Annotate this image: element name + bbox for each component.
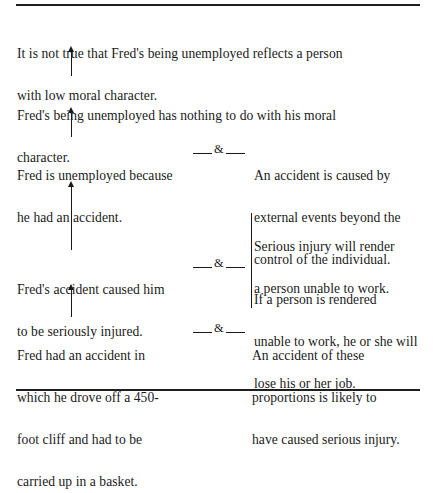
and-connector: & — [193, 257, 245, 269]
statement-warrant-5: An accident of these proportions is like… — [252, 321, 400, 461]
connector-line — [226, 267, 245, 268]
arrow-up-icon — [71, 183, 72, 250]
statement-line: carried up in a basket. — [17, 475, 159, 489]
bottom-rule — [16, 389, 420, 391]
arrow-up-icon — [71, 48, 72, 76]
statement-claim-3: Fred is unemployed because he had an acc… — [17, 141, 173, 239]
statement-line: An accident is caused by — [254, 169, 401, 183]
connector-line — [193, 332, 212, 333]
statement-line: An accident of these — [252, 349, 400, 363]
connector-line — [193, 153, 212, 154]
statement-line: which he drove off a 450- — [17, 391, 159, 405]
statement-line: Fred's accident caused him — [17, 283, 165, 297]
statement-line: Serious injury will render — [254, 240, 395, 254]
statement-premise: Fred had an accident in which he drove o… — [17, 321, 159, 493]
statement-line: foot cliff and had to be — [17, 433, 159, 447]
ampersand-symbol: & — [212, 143, 226, 155]
connector-line — [226, 153, 245, 154]
statement-line: he had an accident. — [17, 211, 173, 225]
bracket-line — [251, 213, 252, 308]
connector-line — [193, 267, 212, 268]
arrow-up-icon — [71, 286, 72, 317]
statement-line: have caused serious injury. — [252, 433, 400, 447]
top-rule — [16, 4, 420, 6]
connector-line — [226, 332, 245, 333]
ampersand-symbol: & — [212, 257, 226, 269]
statement-line: Fred had an accident in — [17, 349, 159, 363]
and-connector: & — [193, 322, 245, 334]
and-connector: & — [193, 143, 245, 155]
statement-line: If a person is rendered — [254, 293, 417, 307]
statement-line: Fred is unemployed because — [17, 169, 173, 183]
statement-line: Fred's being unemployed has nothing to d… — [17, 109, 336, 123]
arrow-up-icon — [71, 109, 72, 137]
statement-line: It is not true that Fred's being unemplo… — [17, 47, 343, 61]
statement-line: proportions is likely to — [252, 391, 400, 405]
ampersand-symbol: & — [212, 322, 226, 334]
